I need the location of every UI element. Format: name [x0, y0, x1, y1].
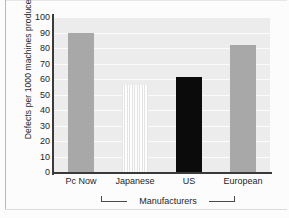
y-axis-tick-labels: 1009080706050403020100	[24, 0, 50, 218]
x-axis-category-labels: Pc NowJapaneseUSEuropean	[54, 176, 270, 192]
y-axis-tick-label: 70	[24, 59, 50, 69]
bar-pc-now	[68, 33, 94, 173]
x-axis-tick-label: US	[183, 176, 196, 186]
y-axis-tick-label: 0	[24, 167, 50, 177]
y-axis-tick-label: 20	[24, 136, 50, 146]
y-axis-tick-label: 50	[24, 90, 50, 100]
y-axis-tick-label: 90	[24, 28, 50, 38]
x-axis-tick-label: Japanese	[115, 176, 154, 186]
figure-frame-left	[5, 0, 6, 210]
x-axis-tick-label: European	[223, 176, 262, 186]
x-axis-tick-label: Pc Now	[65, 176, 96, 186]
y-axis-tick-label: 40	[24, 105, 50, 115]
x-axis-title: Manufacturers	[136, 196, 200, 206]
bracket-right-tick	[234, 196, 235, 202]
x-axis-line	[52, 172, 272, 174]
bar-chart-figure: Defects per 1000 machines produced 10090…	[0, 0, 289, 218]
y-axis-tick-label: 60	[24, 74, 50, 84]
bar-european	[230, 45, 256, 172]
y-axis-tick-label: 100	[24, 12, 50, 22]
y-axis-line	[52, 14, 54, 175]
bracket-right-line	[209, 201, 235, 202]
bar-us	[176, 77, 202, 172]
y-axis-tick-label: 30	[24, 121, 50, 131]
manufacturers-group-bracket: Manufacturers	[101, 196, 235, 206]
y-axis-tick-label: 80	[24, 43, 50, 53]
gridline	[54, 17, 270, 18]
plot-area	[54, 17, 270, 172]
bracket-left-line	[101, 201, 127, 202]
y-axis-tick-label: 10	[24, 152, 50, 162]
bar-japanese	[122, 85, 148, 172]
